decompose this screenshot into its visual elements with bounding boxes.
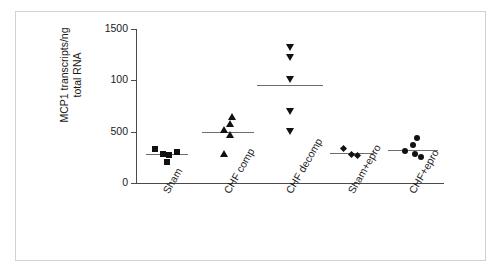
y-axis-line <box>136 29 137 184</box>
data-point <box>226 131 234 138</box>
data-point <box>402 148 408 154</box>
y-tick-label-100: 100 <box>88 74 128 85</box>
data-point <box>410 142 416 148</box>
y-axis-title: MCP1 transcripts/ng total RNA <box>58 0 84 155</box>
data-point <box>174 149 180 155</box>
data-point <box>286 44 294 51</box>
y-tick-0 <box>131 183 136 184</box>
data-point <box>152 146 158 152</box>
y-tick-label-1500: 1500 <box>88 23 128 34</box>
data-point <box>228 113 236 120</box>
scatter-plot: MCP1 transcripts/ng total RNA 0500100150… <box>0 0 504 274</box>
mean-line <box>257 85 323 86</box>
x-tick-label-sham: Sham <box>161 166 184 195</box>
y-axis-title-line1: MCP1 transcripts/ng <box>58 0 71 155</box>
y-tick-label-500: 500 <box>88 126 128 137</box>
data-point <box>414 135 420 141</box>
data-point <box>286 54 294 61</box>
data-point <box>286 76 294 83</box>
data-point <box>166 152 172 158</box>
y-tick-label-0: 0 <box>88 177 128 188</box>
data-point <box>286 128 294 135</box>
x-tick-label-chf-decomp: CHF decomp <box>284 136 324 195</box>
data-point <box>220 150 228 157</box>
y-tick-100 <box>131 80 136 81</box>
y-tick-500 <box>131 132 136 133</box>
y-tick-1500 <box>131 29 136 30</box>
data-point <box>340 145 347 152</box>
data-point <box>164 159 170 165</box>
y-axis-title-line2: total RNA <box>71 0 84 155</box>
data-point <box>286 108 294 115</box>
figure: MCP1 transcripts/ng total RNA 0500100150… <box>0 0 504 274</box>
